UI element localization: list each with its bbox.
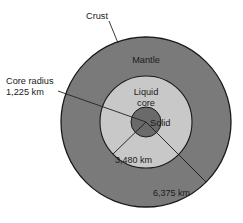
crust-label: Crust — [86, 11, 108, 21]
mantle-label: Mantle — [132, 55, 160, 65]
earth-measurement-label: 6,375 km — [153, 188, 190, 198]
liquid-core-label-line2: core — [137, 98, 155, 108]
solid-core-label: Solid — [150, 118, 170, 128]
core-radius-label-line2: 1,225 km — [6, 87, 44, 97]
earth-cross-section-diagram: Crust Mantle Liquid core Solid Core radi… — [0, 0, 243, 223]
crust-leader-line — [109, 21, 118, 43]
liquid-core-label-line1: Liquid — [134, 87, 159, 97]
outer-core-measurement-label: 3,480 km — [115, 155, 152, 165]
earth-diagram-canvas: Crust Mantle Liquid core Solid Core radi… — [0, 0, 243, 223]
core-radius-label-line1: Core radius — [6, 76, 54, 86]
